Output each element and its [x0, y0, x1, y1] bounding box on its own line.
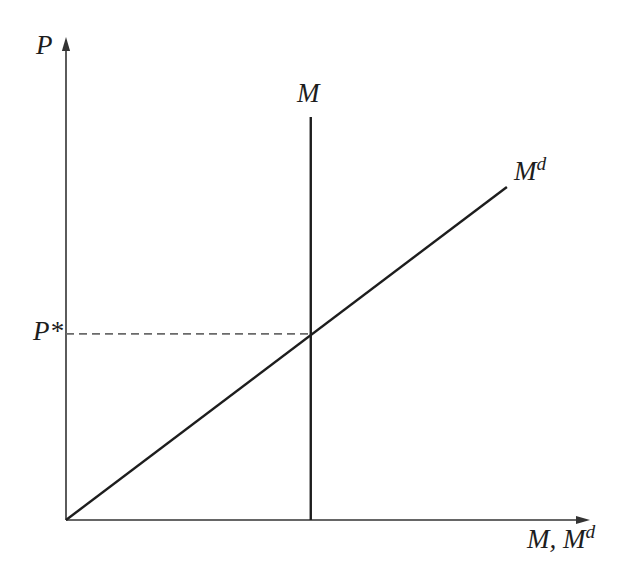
x-axis-label-base: M, M [527, 524, 585, 554]
money-demand-label-base: M [514, 156, 537, 186]
money-market-diagram: P M Md P* M, Md [0, 0, 618, 573]
money-supply-label: M [297, 80, 320, 107]
money-demand-line [66, 187, 507, 520]
x-axis-label-superscript: d [585, 521, 595, 542]
money-demand-label-superscript: d [537, 153, 547, 174]
y-axis-arrowhead-icon [62, 37, 70, 51]
equilibrium-price-label: P* [33, 318, 63, 345]
money-demand-label: Md [514, 158, 546, 185]
y-axis-label: P [36, 32, 53, 59]
x-axis-label: M, Md [527, 526, 595, 553]
